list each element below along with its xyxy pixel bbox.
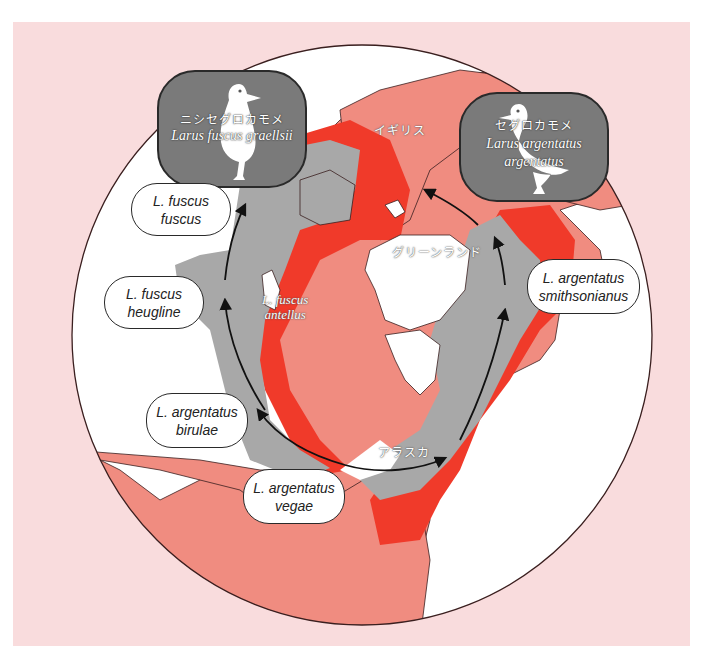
label-line2: fuscus [161,210,201,228]
label-line1: L. argentatus [253,479,335,497]
label-line1: L. fuscus [153,192,209,210]
label-argentatus-vegae: L. argentatus vegae [243,469,345,524]
badge-lesser-black-backed-gull: ニシセグロカモメ Larus fuscus graellsii [157,70,307,188]
badge-japanese-name: セグロカモメ [461,116,607,133]
badge-japanese-name: ニシセグロカモメ [159,110,305,127]
label-fuscus-fuscus: L. fuscus fuscus [131,183,231,236]
label-fuscus-antellus: L. fuscus antellus [262,292,308,322]
label-line2: vegae [275,497,313,515]
polar-map [0,0,703,657]
label-line1: L. argentatus [156,403,238,421]
place-label-britain: イギリス [374,121,426,138]
place-label-greenland: グリーンランド [392,243,482,260]
label-line2: birulae [176,421,218,439]
label-line1: L. argentatus [543,269,625,287]
label-line1: L. fuscus [126,285,182,303]
label-argentatus-birulae: L. argentatus birulae [146,393,248,448]
label-line2: antellus [262,307,308,322]
badge-latin-name-line2: argentatus [461,154,607,170]
badge-latin-name: Larus fuscus graellsii [159,128,305,144]
badge-latin-name-line1: Larus argentatus [461,136,607,152]
place-label-alaska: アラスカ [378,443,430,460]
label-line2: heugline [128,303,181,321]
label-fuscus-heugline: L. fuscus heugline [104,276,204,329]
label-line2: smithsonianus [539,287,629,305]
label-line1: L. fuscus [262,292,308,307]
label-argentatus-smithsonianus: L. argentatus smithsonianus [527,259,640,314]
badge-herring-gull: セグロカモメ Larus argentatus argentatus [459,92,609,202]
